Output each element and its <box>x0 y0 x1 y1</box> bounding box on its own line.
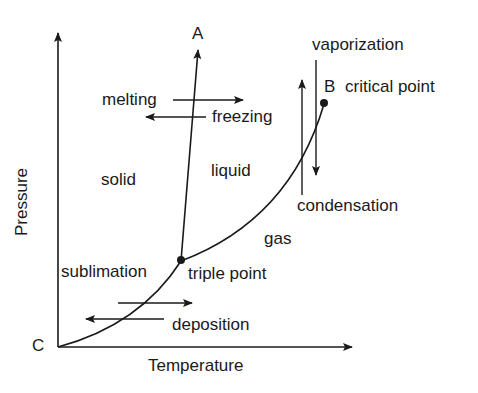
label-deposition: deposition <box>172 316 250 333</box>
region-solid: solid <box>101 171 136 188</box>
melting-curve <box>181 50 198 261</box>
label-vaporization: vaporization <box>312 36 404 53</box>
region-gas: gas <box>264 230 291 247</box>
y-axis-label: Pressure <box>12 168 32 236</box>
label-melting: melting <box>102 91 157 108</box>
critical-point-marker <box>320 99 328 107</box>
label-condensation: condensation <box>297 197 398 214</box>
diagram-lines <box>0 0 478 393</box>
triple-point-marker <box>177 256 185 264</box>
point-label-b: B <box>324 78 335 95</box>
phase-diagram: A B C vaporization critical point meltin… <box>0 0 478 393</box>
label-critical-point: critical point <box>345 78 435 95</box>
x-axis-label: Temperature <box>148 357 243 374</box>
label-freezing: freezing <box>212 108 272 125</box>
label-triple-point: triple point <box>188 265 266 282</box>
label-sublimation: sublimation <box>61 263 147 280</box>
point-label-c: C <box>32 337 44 354</box>
point-label-a: A <box>192 25 203 42</box>
region-liquid: liquid <box>211 162 251 179</box>
